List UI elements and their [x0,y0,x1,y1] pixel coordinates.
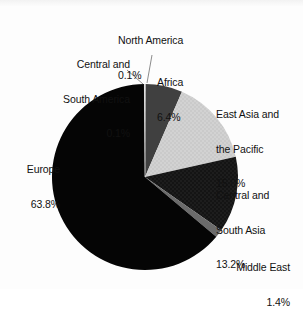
pie-label-east-asia-pacific-name-1: East Asia and [216,109,304,121]
pie-label-north-america-name: North America [118,35,228,47]
pie-label-east-asia-pacific-name-2: the Pacific [216,144,304,156]
pie-label-europe: Europe 63.8% [5,141,60,233]
pie-label-central-south-america-name-2: South America [18,94,130,106]
pie-label-central-south-asia-name-2: South Asia [216,225,304,237]
pie-label-europe-name: Europe [5,164,60,176]
pie-label-central-south-america-name-1: Central and [18,59,130,71]
pie-label-europe-value: 63.8% [5,199,60,211]
pie-label-central-south-america-value: 0.1% [18,128,130,140]
pie-label-middle-east: Middle East 1.4% [212,239,290,310]
pie-label-middle-east-name: Middle East [212,262,290,274]
pie-label-central-south-asia-name-1: Central and [216,190,304,202]
pie-label-middle-east-value: 1.4% [212,297,290,309]
